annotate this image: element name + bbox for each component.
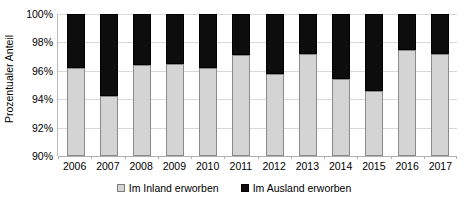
y-tick-label: 92% [32,122,53,134]
bar-segment-foreign[interactable] [299,14,317,54]
y-tick-label: 94% [32,93,53,105]
x-tick-label: 2011 [230,160,253,172]
bar-segment-domestic[interactable] [67,68,85,156]
bar-slot [391,14,424,156]
x-tick-label: 2015 [362,160,385,172]
x-tick-slot: 2012 [258,156,291,176]
stacked-bar[interactable] [232,14,250,156]
bar-segment-domestic[interactable] [100,96,118,156]
stacked-bar[interactable] [398,14,416,156]
bar-segment-domestic[interactable] [232,55,250,156]
bars-layer [59,14,457,156]
x-tick-slot: 2011 [224,156,257,176]
bar-segment-foreign[interactable] [232,14,250,55]
x-tick-mark [357,156,358,159]
x-tick-mark [324,156,325,159]
legend-label: Im Ausland erworben [253,182,352,194]
bar-segment-foreign[interactable] [100,14,118,96]
x-tick-slot: 2006 [58,156,91,176]
x-tick-label: 2017 [429,160,452,172]
y-tick-label: 100% [26,8,53,20]
bar-slot [125,14,158,156]
x-tick-label: 2009 [163,160,186,172]
y-tick-label: 96% [32,65,53,77]
bar-segment-foreign[interactable] [67,14,85,68]
bar-slot [324,14,357,156]
stacked-bar[interactable] [365,14,383,156]
legend-swatch-domestic-icon [117,184,125,192]
x-tick-mark [125,156,126,159]
x-tick-slot: 2007 [91,156,124,176]
x-tick-slot: 2015 [357,156,390,176]
bar-segment-domestic[interactable] [365,91,383,156]
x-tick-label: 2016 [395,160,418,172]
x-tick-mark [58,156,59,159]
legend-swatch-foreign-icon [241,184,249,192]
y-axis-tick-labels: 100%98%96%94%92%90% [18,0,56,162]
bar-segment-foreign[interactable] [365,14,383,91]
bar-segment-domestic[interactable] [431,54,449,156]
x-tick-mark [224,156,225,159]
stacked-bar[interactable] [100,14,118,156]
y-axis-title-label: Prozentualer Anteil [3,35,15,123]
x-tick-label: 2008 [129,160,152,172]
bar-segment-domestic[interactable] [299,54,317,156]
x-tick-mark [91,156,92,159]
bar-segment-domestic[interactable] [398,50,416,157]
bar-segment-foreign[interactable] [431,14,449,54]
bar-segment-domestic[interactable] [199,68,217,156]
x-tick-mark [391,156,392,159]
x-tick-slot: 2017 [424,156,457,176]
x-tick-slot: 2009 [158,156,191,176]
x-tick-slot: 2013 [291,156,324,176]
legend-item[interactable]: Im Ausland erworben [241,182,352,194]
bar-segment-foreign[interactable] [166,14,184,64]
x-tick-slot: 2014 [324,156,357,176]
bar-segment-foreign[interactable] [133,14,151,65]
x-tick-label: 2010 [196,160,219,172]
bar-segment-domestic[interactable] [166,64,184,156]
legend-item[interactable]: Im Inland erworben [117,182,219,194]
bar-segment-domestic[interactable] [133,65,151,156]
y-tick-label: 98% [32,36,53,48]
plot-area [57,14,457,156]
stacked-bar[interactable] [332,14,350,156]
x-tick-slot: 2016 [391,156,424,176]
x-tick-slot: 2008 [125,156,158,176]
legend-label: Im Inland erworben [129,182,219,194]
bar-slot [424,14,457,156]
bar-slot [159,14,192,156]
stacked-bar[interactable] [166,14,184,156]
bar-segment-foreign[interactable] [266,14,284,74]
y-tick-label: 90% [32,150,53,162]
x-tick-label: 2007 [96,160,119,172]
bar-segment-domestic[interactable] [266,74,284,156]
x-tick-mark [424,156,425,159]
y-axis-title: Prozentualer Anteil [0,0,18,158]
x-tick-mark [258,156,259,159]
x-tick-mark [291,156,292,159]
stacked-bar[interactable] [299,14,317,156]
x-tick-mark [158,156,159,159]
bar-slot [258,14,291,156]
stacked-bar[interactable] [431,14,449,156]
bar-segment-domestic[interactable] [332,79,350,156]
stacked-bar[interactable] [67,14,85,156]
stacked-bar[interactable] [266,14,284,156]
bar-slot [59,14,92,156]
bar-segment-foreign[interactable] [398,14,416,50]
bar-slot [92,14,125,156]
x-tick-mark [456,156,457,159]
bar-segment-foreign[interactable] [199,14,217,68]
bar-slot [192,14,225,156]
x-tick-label: 2012 [262,160,285,172]
x-tick-label: 2006 [63,160,86,172]
stacked-bar[interactable] [199,14,217,156]
x-tick-slot: 2010 [191,156,224,176]
bar-segment-foreign[interactable] [332,14,350,79]
bar-slot [291,14,324,156]
stacked-bar[interactable] [133,14,151,156]
stacked-bar-chart: Prozentualer Anteil 100%98%96%94%92%90% … [0,0,468,212]
x-axis-tick-labels: 2006200720082009201020112012201320142015… [58,156,457,176]
x-tick-label: 2013 [296,160,319,172]
